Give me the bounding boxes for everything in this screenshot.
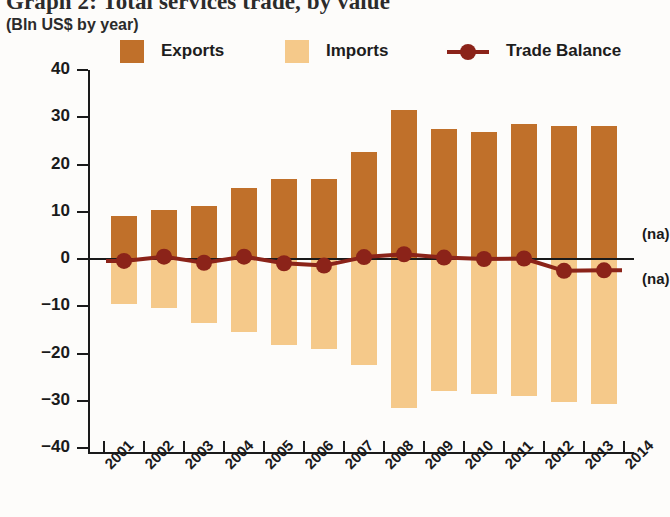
y-axis-tick-label: −30 (24, 390, 70, 410)
legend-swatch-icon (120, 40, 144, 63)
trade-balance-point-2009 (436, 250, 452, 266)
trade-balance-point-2002 (156, 249, 172, 265)
trade-balance-point-2007 (356, 249, 372, 265)
legend-item-trade-balance: Trade Balance (447, 38, 621, 64)
y-axis-tick-label: 40 (24, 59, 70, 79)
y-axis-tick-label: 10 (24, 201, 70, 221)
chart-subtitle: (Bln US$ by year) (6, 16, 138, 34)
legend-item-exports: Exports (120, 38, 224, 64)
trade-balance-point-2010 (476, 251, 492, 267)
y-axis-tick (77, 211, 88, 213)
trade-balance-point-2003 (196, 255, 212, 271)
na-annotation-2: (na) (642, 270, 670, 287)
trade-balance-point-2012 (556, 263, 572, 279)
y-axis-tick-label: 0 (24, 248, 70, 268)
y-axis-tick (77, 305, 88, 307)
y-axis-tick (77, 116, 88, 118)
y-axis-tick-label: −10 (24, 295, 70, 315)
trade-balance-point-2006 (316, 258, 332, 274)
y-axis-tick-label: 20 (24, 154, 70, 174)
trade-balance-point-2013 (596, 262, 612, 278)
y-axis-tick (77, 69, 88, 71)
y-axis-tick (77, 400, 88, 402)
legend-line-dot-icon (447, 40, 489, 63)
na-annotation-1: (na) (642, 225, 670, 242)
y-axis-tick (77, 258, 88, 260)
legend-item-imports: Imports (285, 38, 388, 64)
chart-legend: ExportsImportsTrade Balance (0, 38, 644, 64)
chart-title: Graph 2: Total services trade, by value (6, 0, 390, 15)
trade-balance-point-2005 (276, 255, 292, 271)
legend-label: Exports (161, 41, 224, 61)
y-axis-tick (77, 447, 88, 449)
legend-swatch-icon (285, 40, 309, 63)
y-axis-tick-label: −20 (24, 343, 70, 363)
plot-area: 403020100−10−20−30−40 200120022003200420… (88, 64, 634, 454)
trade-balance-point-2011 (516, 251, 532, 267)
trade-balance-point-2001 (116, 253, 132, 269)
y-axis-tick-label: 30 (24, 106, 70, 126)
legend-label: Imports (326, 41, 388, 61)
trade-balance-point-2008 (396, 246, 412, 262)
trade-balance-point-2004 (236, 249, 252, 265)
trade-balance-line (88, 64, 634, 454)
y-axis-tick-label: −40 (24, 437, 70, 457)
y-axis-tick (77, 353, 88, 355)
legend-label: Trade Balance (506, 41, 621, 61)
y-axis-tick (77, 164, 88, 166)
